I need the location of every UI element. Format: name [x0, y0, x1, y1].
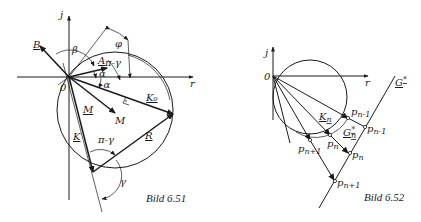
gamma-arc	[102, 160, 122, 199]
imag-axis-label: j	[58, 9, 63, 20]
label-circle-p-n-plus-1: pn+1	[298, 143, 321, 156]
label-beta: β	[71, 44, 78, 55]
real-axis-label: r	[365, 77, 371, 88]
label-circle-p-n: pn	[327, 138, 339, 151]
caption-bild-6-52: Bild 6.52	[364, 191, 405, 203]
label-K0: K₀	[145, 92, 157, 103]
real-axis-label: r	[190, 78, 196, 89]
label-M-point: M	[114, 115, 126, 126]
label-phi: φ	[115, 38, 122, 49]
label-Gn-star: Gn*	[343, 125, 356, 140]
vector-K	[69, 77, 93, 172]
pi-minus-gamma-lower-arc	[90, 149, 115, 155]
phi-arc-tick	[128, 40, 130, 78]
label-alpha: α	[99, 68, 106, 79]
right-angle-dot	[125, 100, 127, 102]
origin-label: 0	[264, 71, 271, 82]
label-K: K	[72, 131, 81, 142]
diagram-canvas: j r 0 B β φ A	[0, 0, 421, 222]
imag-axis-label: j	[263, 47, 268, 58]
point-circle-p-n	[328, 133, 331, 136]
label-circle-p-n-minus-1: pn-1	[351, 106, 370, 119]
figure-6-52: j r 0 G* Kn Gn* pn-1 pn pn+1 pn-1	[263, 47, 407, 208]
point-circle-p-n-plus-1	[308, 138, 311, 141]
label-R: R	[144, 130, 153, 141]
point-circle-p-n-minus-1	[346, 116, 349, 119]
label-neg-alpha: -α	[100, 79, 110, 90]
vector-to-p-n-minus-1	[273, 76, 348, 118]
label-pi-minus-gamma-lower: π-γ	[97, 134, 114, 145]
label-B: B	[32, 39, 40, 50]
label-line-p-n: pn	[352, 149, 364, 162]
caption-bild-6-51: Bild 6.51	[146, 192, 186, 204]
label-gamma: γ	[120, 176, 126, 187]
label-pi-minus-gamma: π-γ	[104, 57, 121, 68]
label-M-vector: M	[82, 104, 94, 115]
figure-6-51: j r 0 B β φ A	[17, 9, 196, 212]
label-G-star: G*	[395, 75, 407, 88]
label-A: A	[97, 55, 105, 66]
label-line-p-n-minus-1: pn-1	[367, 123, 386, 136]
label-line-p-n-plus-1: pn+1	[337, 177, 360, 190]
label-Kn: Kn	[318, 111, 332, 124]
